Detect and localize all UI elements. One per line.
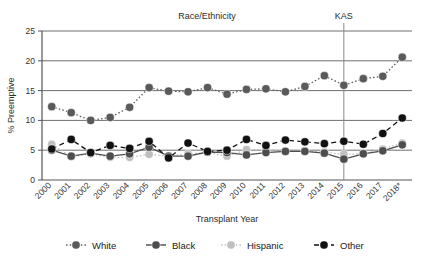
x-axis-tick-label: 2001 <box>52 180 73 201</box>
x-axis-tick-label: 2007 <box>169 180 190 201</box>
legend-marker-hispanic <box>227 241 235 249</box>
data-point <box>242 85 250 93</box>
x-axis-tick-label: 2009 <box>208 180 229 201</box>
legend-label-white: White <box>92 240 116 251</box>
legend-label-black: Black <box>172 240 195 251</box>
data-point <box>87 116 95 124</box>
y-axis-tick-labels: 0510152025 <box>26 26 36 185</box>
data-point <box>87 148 95 156</box>
x-axis-tick-label: 2008 <box>188 180 209 201</box>
x-axis-tick-label: 2011 <box>247 180 267 200</box>
data-point <box>398 141 406 149</box>
data-point <box>340 137 348 145</box>
data-point <box>184 88 192 96</box>
data-point <box>48 145 56 153</box>
data-point <box>320 149 328 157</box>
data-point <box>359 140 367 148</box>
data-point <box>242 135 250 143</box>
data-point <box>223 90 231 98</box>
data-point <box>262 141 270 149</box>
data-point <box>379 72 387 80</box>
data-point <box>106 141 114 149</box>
data-point <box>359 75 367 83</box>
x-axis-tick-label: 2015 <box>325 180 346 201</box>
data-point <box>301 138 309 146</box>
data-point <box>320 72 328 80</box>
x-axis-tick-label: 2018* <box>381 180 404 203</box>
data-point <box>379 147 387 155</box>
legend-marker-black <box>152 241 160 249</box>
chart-container: 0510152025KASRace/Ethnicity2000200120022… <box>0 0 434 264</box>
data-point <box>164 87 172 95</box>
data-point <box>67 109 75 117</box>
x-axis-tick-label: 2002 <box>72 180 93 201</box>
x-axis-tick-label: 2000 <box>33 180 54 201</box>
data-point <box>126 144 134 152</box>
series-white <box>48 53 407 124</box>
data-point <box>67 152 75 160</box>
legend-marker-other <box>320 241 328 249</box>
x-axis-tick-label: 2013 <box>286 180 307 201</box>
series-line-white <box>52 57 403 120</box>
data-point <box>145 137 153 145</box>
race-ethnicity-preemptive-line-chart: 0510152025KASRace/Ethnicity2000200120022… <box>0 0 434 264</box>
data-point <box>359 150 367 158</box>
data-point <box>340 155 348 163</box>
data-point <box>106 113 114 121</box>
data-point <box>126 103 134 111</box>
legend-label-other: Other <box>340 240 364 251</box>
data-point <box>281 88 289 96</box>
y-axis-tick-label: 0 <box>30 175 35 185</box>
legend-marker-white <box>72 241 80 249</box>
data-point <box>398 114 406 122</box>
data-point <box>320 140 328 148</box>
data-point <box>301 147 309 155</box>
x-axis-tick-label: 2010 <box>227 180 248 201</box>
data-point <box>48 103 56 111</box>
x-axis-tick-label: 2016 <box>344 180 365 201</box>
data-point <box>398 53 406 61</box>
x-axis-tick-label: 2003 <box>91 180 112 201</box>
data-point <box>379 129 387 137</box>
data-point <box>262 85 270 93</box>
data-point <box>242 151 250 159</box>
data-point <box>301 82 309 90</box>
x-axis-tick-label: 2006 <box>150 180 171 201</box>
data-point <box>106 152 114 160</box>
kas-annotation-label: KAS <box>335 11 353 21</box>
data-point <box>203 147 211 155</box>
x-axis-tick-label: 2012 <box>266 180 287 201</box>
x-axis-title: Transplant Year <box>196 214 259 224</box>
y-axis-tick-label: 15 <box>26 86 36 96</box>
data-point <box>281 147 289 155</box>
data-point <box>145 84 153 92</box>
x-axis-tick-labels: 2000200120022003200420052006200720082009… <box>33 180 404 203</box>
x-axis-tick-label: 2005 <box>130 180 151 201</box>
x-axis-tick-label: 2004 <box>111 180 132 201</box>
data-point <box>281 136 289 144</box>
chart-legend: WhiteBlackHispanicOther <box>66 240 364 251</box>
data-point <box>184 139 192 147</box>
y-axis-tick-label: 5 <box>30 145 35 155</box>
y-axis-tick-label: 10 <box>26 115 36 125</box>
data-point <box>203 84 211 92</box>
data-point <box>67 135 75 143</box>
data-point <box>164 154 172 162</box>
legend-label-hispanic: Hispanic <box>247 240 284 251</box>
data-point <box>223 146 231 154</box>
chart-title: Race/Ethnicity <box>178 11 236 21</box>
y-axis-tick-label: 25 <box>26 26 36 36</box>
data-point <box>184 152 192 160</box>
y-axis-tick-label: 20 <box>26 56 36 66</box>
x-axis-tick-label: 2014 <box>305 180 326 201</box>
y-axis-title: % Preemptive <box>6 77 16 133</box>
data-point <box>340 81 348 89</box>
